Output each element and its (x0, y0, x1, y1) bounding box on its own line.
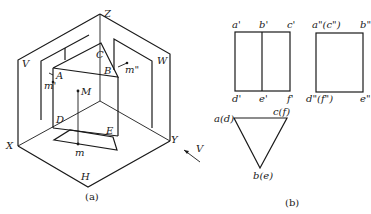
label-f-prime: f' (286, 93, 293, 104)
label-w-plane: W (157, 55, 168, 66)
v-projection-rect (41, 35, 89, 120)
point-M (77, 90, 80, 93)
projection-diagram: Z V W X Y H C B A m' m" M D E m V (a) a'… (0, 0, 371, 214)
label-e-prime: e' (259, 93, 268, 104)
label-point-M: M (80, 86, 92, 97)
side-view-rect (316, 33, 363, 92)
label-a-c-double-prime: a"(c") (312, 19, 341, 30)
label-vertex-d: D (55, 114, 64, 125)
label-vertex-e: E (105, 125, 114, 136)
figure-b-orthographic: a' b' c' d' e' f' a"(c") b" d"(f") e" a(… (214, 19, 371, 208)
label-vertex-a: A (55, 70, 63, 81)
label-z: Z (103, 8, 112, 19)
label-a-prime: a' (232, 19, 241, 30)
point-m (77, 143, 80, 146)
label-b-e: b(e) (253, 170, 273, 181)
label-c-f: c(f) (273, 106, 290, 117)
figure-a-isometric: Z V W X Y H C B A m' m" M D E m V (a) (5, 8, 205, 202)
label-vertex-c: C (96, 49, 104, 60)
h-plane-outline (18, 141, 170, 187)
w-plane-outline (100, 14, 170, 141)
label-b-prime: b' (259, 19, 268, 30)
label-v-plane: V (22, 58, 31, 69)
caption-b: (b) (285, 197, 299, 208)
label-vertex-b: B (103, 65, 111, 76)
label-e-double-prime: e" (360, 93, 371, 104)
caption-a: (a) (85, 191, 99, 202)
label-view-direction: V (196, 143, 205, 154)
label-a-d: a(d) (214, 113, 234, 124)
label-m-prime: m' (44, 80, 56, 91)
w-projection-rect (114, 39, 152, 128)
label-y: Y (171, 134, 179, 145)
label-c-prime: c' (287, 19, 295, 30)
label-m-double-prime: m" (125, 64, 139, 75)
label-d-prime: d' (232, 93, 241, 104)
top-view-triangle (234, 118, 287, 168)
label-h-plane: H (80, 171, 90, 182)
label-point-m: m (75, 147, 84, 158)
label-d-f-double-prime: d"(f") (306, 93, 333, 104)
label-b-double-prime: b" (360, 19, 371, 30)
label-x: X (5, 140, 14, 151)
